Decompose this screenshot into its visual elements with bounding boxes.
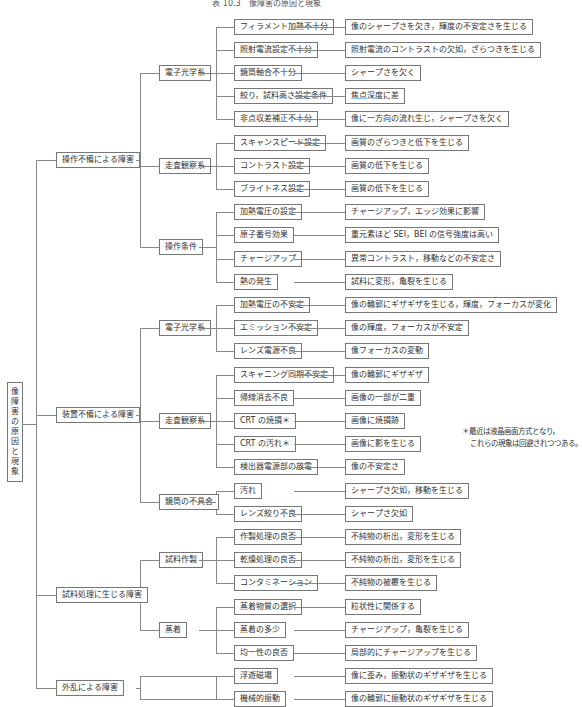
connector xyxy=(294,143,345,144)
effect-box: 像に一方向の流れ生じ，シャープさを欠く xyxy=(345,111,509,127)
connector xyxy=(216,50,234,51)
group-box: 蒸着 xyxy=(159,622,187,638)
connector xyxy=(216,212,234,213)
connector xyxy=(136,688,140,689)
connector xyxy=(140,328,141,503)
effect-box: 不純物の析出，変形を生じる xyxy=(345,552,461,568)
effect-box: 照射電流のコントラストの欠如，ざらつきを生じる xyxy=(345,42,541,58)
connector xyxy=(216,305,234,306)
connector xyxy=(199,166,216,167)
connector xyxy=(216,421,234,422)
effect-box: 不純物の被覆を生じる xyxy=(345,575,437,591)
connector xyxy=(199,560,216,561)
connector xyxy=(36,160,56,161)
connector xyxy=(216,607,234,608)
connector xyxy=(294,398,345,399)
category-box: 操作不備による障害 xyxy=(56,152,140,168)
cause-box: 浮遊磁場 xyxy=(234,668,278,684)
footnote-line-1: ＊最近は液晶画面方式となり， xyxy=(462,426,559,437)
connector xyxy=(294,560,345,561)
connector xyxy=(294,282,345,283)
connector xyxy=(216,607,217,654)
connector xyxy=(216,491,234,492)
effect-box: 局部的にチャージアップを生じる xyxy=(345,645,477,661)
connector xyxy=(294,630,345,631)
connector xyxy=(216,143,234,144)
connector xyxy=(294,421,345,422)
effect-box: 試料に変形，亀裂を生じる xyxy=(345,274,453,290)
connector xyxy=(136,160,140,161)
category-box: 試料処理に生じる障害 xyxy=(56,587,148,603)
cause-box: CRT の汚れ＊ xyxy=(234,436,296,452)
connector xyxy=(294,351,345,352)
cause-box: 作製処理の良否 xyxy=(234,529,302,545)
root-box: 像障害の原因と現象 xyxy=(7,382,23,482)
connector xyxy=(216,398,234,399)
connector xyxy=(140,73,141,248)
connector xyxy=(294,96,345,97)
connector xyxy=(199,247,216,248)
cause-box: 蒸着物質の選択 xyxy=(234,599,302,615)
connector xyxy=(36,415,56,416)
effect-box: 像に歪み，振動状のギザギザを生じる xyxy=(345,668,493,684)
connector xyxy=(22,424,36,425)
connector xyxy=(140,676,141,700)
connector xyxy=(294,305,345,306)
connector xyxy=(216,282,234,283)
connector xyxy=(294,189,345,190)
cause-box: 加熱電圧の設定 xyxy=(234,204,302,220)
connector xyxy=(199,630,216,631)
effect-box: 異常コントラスト，移動などの不安定さ xyxy=(345,251,501,267)
cause-box: 乾燥処理の良否 xyxy=(234,552,302,568)
connector xyxy=(199,73,216,74)
connector xyxy=(294,676,345,677)
group-box: 試料作製 xyxy=(159,552,203,568)
category-box: 装置不備による障害 xyxy=(56,407,140,423)
cause-box: レンズ絞り不良 xyxy=(234,506,302,522)
connector xyxy=(216,96,234,97)
connector xyxy=(216,630,234,631)
connector xyxy=(294,50,345,51)
effect-box: 重元素ほど SEI，BEI の信号強度は高い xyxy=(345,227,499,243)
effect-box: 焦点深度に差 xyxy=(345,88,405,104)
effect-box: チャージアップ，エッジ効果に影響 xyxy=(345,204,485,220)
effect-box: チャージアップ，亀裂を生じる xyxy=(345,622,469,638)
connector xyxy=(140,676,216,677)
connector xyxy=(216,143,217,190)
effect-box: 像の輪郭にギザギザ xyxy=(345,367,429,383)
effect-box: 像フォーカスの変動 xyxy=(345,343,429,359)
cause-box: 蒸着の多少 xyxy=(234,622,286,638)
effect-box: 画質の低下を生じる xyxy=(345,181,429,197)
effect-box: 像の輝度，フォーカスが不安定 xyxy=(345,320,469,336)
effect-box: シャープさ欠如 xyxy=(345,506,413,522)
effect-box: シャープさ欠如，移動を生じる xyxy=(345,483,469,499)
cause-box: 原子番号効果 xyxy=(234,227,294,243)
effect-box: 画質の低下を生じる xyxy=(345,158,429,174)
connector xyxy=(216,375,234,376)
connector xyxy=(216,583,234,584)
connector xyxy=(216,514,234,515)
connector xyxy=(216,351,234,352)
connector xyxy=(294,583,345,584)
connector xyxy=(216,560,234,561)
connector xyxy=(294,491,345,492)
connector xyxy=(216,653,234,654)
cause-box: チャージアップ xyxy=(234,251,302,267)
connector xyxy=(216,537,217,584)
effect-box: 画像に影を生じる xyxy=(345,436,421,452)
connector xyxy=(294,166,345,167)
connector xyxy=(36,595,56,596)
connector xyxy=(294,467,345,468)
cause-box: CRT の焼損＊ xyxy=(234,413,296,429)
connector xyxy=(140,166,159,167)
connector xyxy=(36,160,37,689)
effect-box: シャープさを欠く xyxy=(345,65,421,81)
connector xyxy=(216,467,234,468)
connector xyxy=(216,328,234,329)
connector xyxy=(216,27,217,121)
connector xyxy=(294,212,345,213)
cause-box: 帰線消去不良 xyxy=(234,390,294,406)
connector xyxy=(216,166,234,167)
connector xyxy=(140,699,216,700)
effect-box: 画像の一部が二重 xyxy=(345,390,421,406)
